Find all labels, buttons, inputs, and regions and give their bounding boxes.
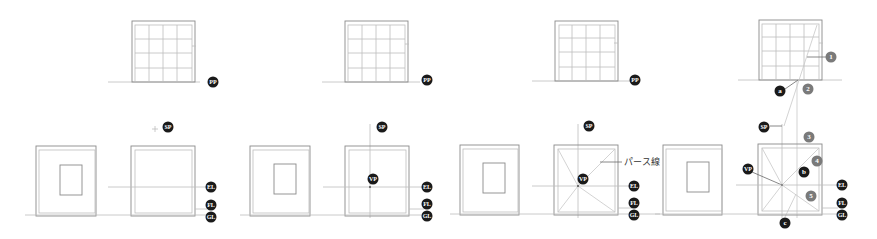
elevation-view bbox=[36, 146, 96, 216]
sp-marker: SP bbox=[377, 122, 388, 133]
pp-badge: PP bbox=[630, 75, 641, 86]
svg-text:EL: EL bbox=[207, 184, 215, 190]
pp-badge: PP bbox=[208, 77, 219, 88]
gl-badge: GL bbox=[206, 212, 217, 223]
svg-text:SP: SP bbox=[164, 124, 171, 130]
elevation-view bbox=[250, 146, 310, 216]
svg-text:VP: VP bbox=[744, 166, 752, 172]
svg-text:5: 5 bbox=[809, 192, 813, 200]
perspective-line-callout: パース線 bbox=[600, 156, 660, 167]
panel-1: PP SP EL FL bbox=[25, 21, 219, 223]
svg-text:FL: FL bbox=[207, 202, 215, 208]
svg-text:4: 4 bbox=[815, 157, 819, 165]
svg-text:a: a bbox=[778, 87, 782, 95]
svg-text:2: 2 bbox=[806, 85, 810, 93]
svg-text:FL: FL bbox=[423, 201, 431, 207]
plan-grid bbox=[108, 21, 200, 82]
svg-text:PP: PP bbox=[423, 77, 431, 83]
gl-badge: GL bbox=[837, 210, 848, 221]
svg-text:FL: FL bbox=[630, 200, 638, 206]
callout-3: 3 bbox=[804, 132, 815, 143]
svg-text:GL: GL bbox=[423, 213, 432, 219]
plan-grid bbox=[532, 21, 630, 81]
panel-2: PP SP VP EL FL bbox=[240, 21, 433, 222]
el-badge: EL bbox=[629, 181, 640, 192]
svg-text:b: b bbox=[802, 168, 806, 176]
room-perspective bbox=[758, 144, 822, 215]
callout-b: b bbox=[799, 167, 810, 178]
svg-text:EL: EL bbox=[630, 183, 638, 189]
svg-text:PP: PP bbox=[209, 79, 217, 85]
el-badge: EL bbox=[206, 182, 217, 193]
fl-badge: FL bbox=[422, 199, 433, 210]
sp-marker: SP bbox=[759, 122, 783, 133]
plan-grid bbox=[322, 21, 420, 82]
svg-text:c: c bbox=[783, 219, 786, 227]
svg-text:GL: GL bbox=[207, 214, 216, 220]
panel-3: PP SP パース線 bbox=[450, 21, 660, 221]
svg-text:3: 3 bbox=[807, 133, 811, 141]
perspective-drawing-diagram: PP SP EL FL bbox=[0, 0, 877, 239]
room-perspective bbox=[131, 146, 195, 216]
fl-badge: FL bbox=[629, 198, 640, 209]
svg-text:FL: FL bbox=[838, 200, 846, 206]
panel-4: 1 a 2 SP 3 bbox=[655, 20, 848, 229]
plan-grid bbox=[738, 20, 842, 80]
svg-text:SP: SP bbox=[378, 124, 385, 130]
callout-c: c bbox=[780, 218, 791, 229]
el-badge: EL bbox=[837, 180, 848, 191]
svg-text:EL: EL bbox=[838, 182, 846, 188]
svg-text:パース線: パース線 bbox=[624, 156, 660, 167]
el-badge: EL bbox=[422, 182, 433, 193]
gl-badge: GL bbox=[422, 211, 433, 222]
callout-5: 5 bbox=[806, 191, 817, 202]
svg-text:SP: SP bbox=[585, 123, 592, 129]
fl-badge: FL bbox=[206, 200, 217, 211]
svg-text:GL: GL bbox=[630, 212, 639, 218]
vp-marker: VP bbox=[743, 164, 784, 187]
fl-badge: FL bbox=[837, 198, 848, 209]
gl-badge: GL bbox=[629, 210, 640, 221]
svg-text:SP: SP bbox=[760, 124, 767, 130]
svg-text:VP: VP bbox=[369, 176, 377, 182]
sp-marker: SP bbox=[584, 121, 595, 132]
callout-2: 2 bbox=[803, 84, 814, 95]
svg-text:EL: EL bbox=[423, 184, 431, 190]
sp-marker: SP bbox=[152, 122, 174, 133]
svg-text:PP: PP bbox=[631, 77, 639, 83]
elevation-view bbox=[663, 145, 722, 215]
perspective-diagonals bbox=[762, 148, 819, 211]
svg-text:VP: VP bbox=[579, 176, 587, 182]
pp-badge: PP bbox=[422, 75, 433, 86]
svg-text:GL: GL bbox=[838, 212, 847, 218]
elevation-view bbox=[460, 145, 519, 215]
svg-text:1: 1 bbox=[829, 53, 833, 61]
callout-4: 4 bbox=[812, 156, 823, 167]
vp-marker: VP bbox=[368, 174, 379, 189]
